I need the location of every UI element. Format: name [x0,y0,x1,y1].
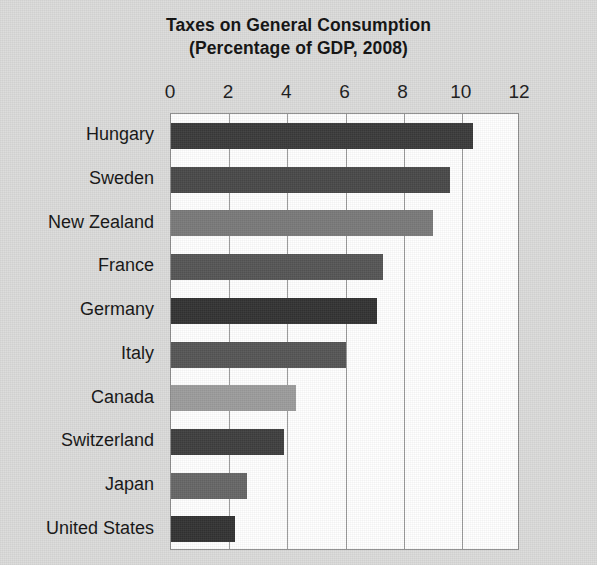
chart-title-subtitle: (Percentage of GDP, 2008) [0,37,597,60]
bar-france [171,254,383,280]
category-label-canada: Canada [91,375,162,419]
category-label-japan: Japan [105,463,162,507]
bar-chart-figure: Taxes on General Consumption (Percentage… [0,0,597,565]
x-tick-label-4: 4 [281,81,292,103]
bar-new-zealand [171,210,433,236]
category-label-switzerland: Switzerland [61,419,162,463]
x-tick-label-2: 2 [223,81,234,103]
category-label-new-zealand: New Zealand [48,200,162,244]
x-tick-label-8: 8 [397,81,408,103]
bar-row [171,420,518,464]
y-axis-category-labels: HungarySwedenNew ZealandFranceGermanyIta… [0,113,162,550]
plot-area [170,113,519,550]
bar-row [171,289,518,333]
x-tick-label-0: 0 [165,81,176,103]
x-axis-tick-labels: 024681012 [0,81,597,107]
bar-row [171,333,518,377]
bar-row [171,201,518,245]
bar-row [171,114,518,158]
bar-row [171,376,518,420]
category-label-hungary: Hungary [86,113,162,157]
bar-japan [171,473,247,499]
bar-italy [171,342,346,368]
x-tick-label-6: 6 [339,81,350,103]
chart-title-main: Taxes on General Consumption [166,15,431,35]
bar-row [171,464,518,508]
bar-sweden [171,167,450,193]
category-label-germany: Germany [80,288,162,332]
bars-layer [171,114,518,549]
bar-row [171,245,518,289]
category-label-sweden: Sweden [89,157,162,201]
category-label-united-states: United States [46,506,162,550]
category-label-italy: Italy [121,332,162,376]
bar-canada [171,385,296,411]
bar-hungary [171,123,473,149]
bar-row [171,158,518,202]
chart-title: Taxes on General Consumption (Percentage… [0,14,597,60]
bar-switzerland [171,429,284,455]
x-tick-label-10: 10 [450,81,471,103]
bar-united-states [171,516,235,542]
bar-row [171,507,518,551]
category-label-france: France [98,244,162,288]
bar-germany [171,298,377,324]
x-tick-label-12: 12 [508,81,529,103]
